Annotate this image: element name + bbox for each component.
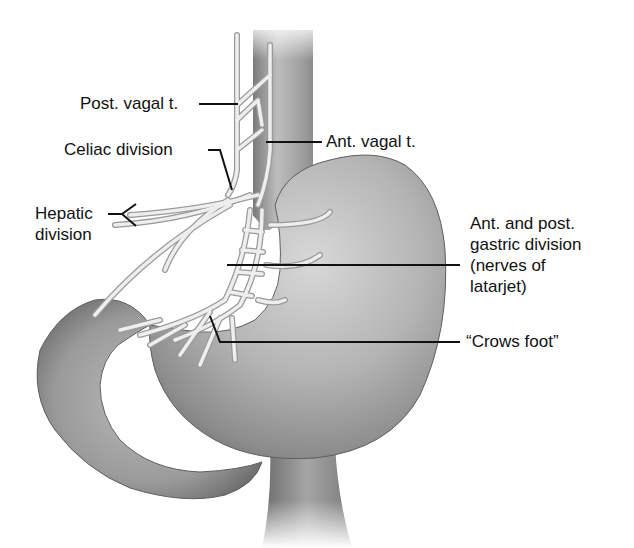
leader-celiac — [208, 150, 232, 190]
stomach — [150, 155, 446, 459]
label-post-vagal-trunk: Post. vagal t. — [80, 93, 178, 114]
label-gastric-line3: (nerves of — [470, 255, 546, 276]
jejunum-tail — [255, 445, 365, 548]
label-gastric-line2: gastric division — [470, 234, 582, 255]
label-hepatic-line2: division — [35, 224, 92, 245]
vagal-nerve-diagram: Post. vagal t. Ant. vagal t. Celiac divi… — [0, 0, 634, 548]
label-hepatic-line1: Hepatic — [35, 203, 93, 224]
label-celiac-division: Celiac division — [64, 139, 173, 160]
label-ant-vagal-trunk: Ant. vagal t. — [326, 131, 416, 152]
label-gastric-line1: Ant. and post. — [470, 213, 575, 234]
label-crows-foot: “Crows foot” — [466, 331, 559, 352]
label-gastric-line4: latarjet) — [470, 276, 527, 297]
